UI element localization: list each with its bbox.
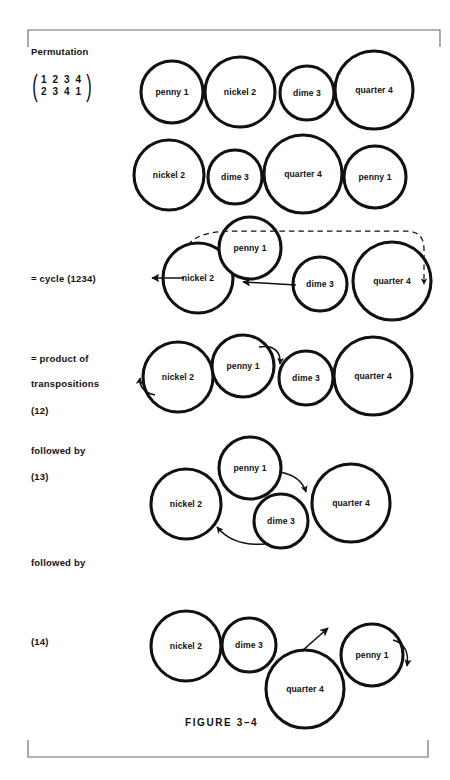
label-followed-by-1: followed by bbox=[31, 446, 85, 456]
coin-label-dime: dime 3 bbox=[292, 373, 320, 383]
matrix-row-top: 1 2 3 4 bbox=[41, 74, 83, 86]
coin-label-nickel: nickel 2 bbox=[170, 641, 202, 651]
label-cycle: = cycle (1234) bbox=[31, 274, 96, 284]
row-cycle-1234: nickel 2 penny 1 dime 3 quarter 4 bbox=[152, 217, 431, 320]
row-permuted-order: nickel 2 dime 3 quarter 4 penny 1 bbox=[134, 135, 406, 213]
t13-arrow-penny-to-quarter bbox=[280, 472, 306, 492]
label-product-line2: transpositions bbox=[31, 379, 99, 389]
coin-label-quarter: quarter 4 bbox=[355, 85, 393, 95]
figure-caption: FIGURE 3–4 bbox=[185, 717, 258, 728]
matrix-left-paren: ( bbox=[32, 74, 38, 97]
permutation-matrix: ( 1 2 3 4 2 3 4 1 ) bbox=[30, 74, 94, 97]
label-transposition-13: (13) bbox=[31, 472, 49, 482]
coin-label-penny: penny 1 bbox=[355, 650, 388, 660]
matrix-row-bottom: 2 3 4 1 bbox=[41, 86, 83, 98]
coin-label-nickel: nickel 2 bbox=[162, 372, 194, 382]
label-transposition-12: (12) bbox=[31, 406, 49, 416]
matrix-right-paren: ) bbox=[86, 74, 92, 97]
coin-label-nickel: nickel 2 bbox=[224, 87, 256, 97]
t14-arrow-quarter-up bbox=[302, 628, 328, 651]
row-transposition-14: nickel 2 dime 3 quarter 4 penny 1 bbox=[151, 611, 408, 728]
coin-label-dime: dime 3 bbox=[235, 640, 263, 650]
coin-label-penny: penny 1 bbox=[155, 87, 188, 97]
coin-label-penny: penny 1 bbox=[233, 243, 266, 253]
coin-label-dime: dime 3 bbox=[267, 516, 295, 526]
coin-label-dime: dime 3 bbox=[293, 88, 321, 98]
cycle-arrow-dime-to-nickel bbox=[243, 282, 296, 285]
row-original-order: penny 1 nickel 2 dime 3 quarter 4 bbox=[141, 51, 413, 129]
coin-label-dime: dime 3 bbox=[306, 279, 334, 289]
label-permutation: Permutation bbox=[31, 47, 89, 57]
row-transposition-12: nickel 2 penny 1 dime 3 quarter 4 bbox=[140, 335, 412, 415]
coin-label-nickel: nickel 2 bbox=[170, 499, 202, 509]
figure-page: penny 1 nickel 2 dime 3 quarter 4 nickel… bbox=[0, 0, 450, 780]
coin-label-quarter: quarter 4 bbox=[373, 276, 411, 286]
row-transposition-13: nickel 2 penny 1 dime 3 quarter 4 bbox=[151, 437, 390, 548]
label-transposition-14: (14) bbox=[31, 637, 49, 647]
coin-label-penny: penny 1 bbox=[358, 172, 391, 182]
coin-label-penny: penny 1 bbox=[226, 361, 259, 371]
coin-label-dime: dime 3 bbox=[221, 172, 249, 182]
coin-label-nickel: nickel 2 bbox=[182, 273, 214, 283]
coin-label-penny: penny 1 bbox=[233, 463, 266, 473]
coin-label-nickel: nickel 2 bbox=[153, 170, 185, 180]
coin-label-quarter: quarter 4 bbox=[284, 169, 322, 179]
coin-label-quarter: quarter 4 bbox=[354, 371, 392, 381]
coin-label-quarter: quarter 4 bbox=[286, 684, 324, 694]
figure-canvas: penny 1 nickel 2 dime 3 quarter 4 nickel… bbox=[0, 0, 450, 780]
label-followed-by-2: followed by bbox=[31, 558, 85, 568]
coin-label-quarter: quarter 4 bbox=[332, 498, 370, 508]
label-product-line1: = product of bbox=[31, 354, 89, 364]
